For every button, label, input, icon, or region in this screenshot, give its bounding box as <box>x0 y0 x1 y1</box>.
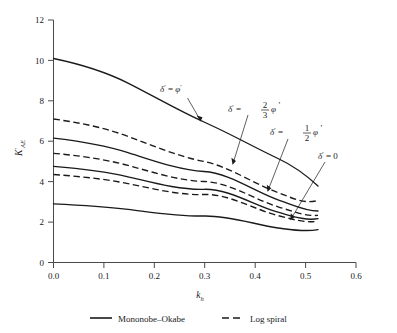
legend-label-mononobe-okabe: Mononobe–Okabe <box>118 314 185 324</box>
anno2-phi-prime: ′ <box>279 100 281 110</box>
y-tick-label-2: 2 <box>40 217 45 227</box>
figure-container: 0 2 4 6 8 10 12 0.0 0.1 0.2 0.3 0.4 0.5 … <box>0 0 397 333</box>
leader-line-delta-half <box>268 139 288 191</box>
anno4-zero: 0 <box>333 151 338 161</box>
x-axis-title-sub: h <box>200 295 203 302</box>
anno1-equals: = <box>166 84 176 94</box>
anno2-phi-symbol: φ <box>271 104 276 114</box>
y-tick-label-8: 8 <box>40 96 45 106</box>
curve-mo-delta-half-phi <box>54 166 319 219</box>
x-tick-label-5: 0.5 <box>300 271 312 281</box>
y-tick-label-4: 4 <box>40 177 45 187</box>
svg-text:δ′ =: δ′ = <box>270 126 283 137</box>
x-axis-title: kh <box>196 290 203 302</box>
svg-text:K′AE: K′AE <box>13 140 26 157</box>
anno4-equals: = <box>324 151 334 161</box>
svg-text:δ′ =: δ′ = <box>228 103 241 114</box>
x-tick-label-4: 0.4 <box>250 271 262 281</box>
y-axis-title: K′AE <box>13 140 26 157</box>
anno2-fraction-numerator: 2 <box>263 100 268 110</box>
svg-text:δ′ = φ′: δ′ = φ′ <box>160 83 182 94</box>
anno2-fraction-denominator: 3 <box>263 110 268 120</box>
leader-arrow-delta-half <box>267 185 272 192</box>
annotation-delta-two-thirds-phi: δ′ = 2 3 φ ′ <box>228 100 281 120</box>
anno2-equals: = <box>234 104 241 114</box>
curve-ls-delta-half-phi <box>54 175 319 222</box>
annotation-delta-zero: δ′ = 0 <box>318 150 338 161</box>
x-tick-label-3: 0.3 <box>199 271 211 281</box>
annotation-delta-eq-phi: δ′ = φ′ <box>160 83 182 94</box>
x-tick-label-2: 0.2 <box>149 271 160 281</box>
x-ticks-group: 0.0 0.1 0.2 0.3 0.4 0.5 0.6 <box>48 263 362 282</box>
x-tick-label-0: 0.0 <box>48 271 60 281</box>
anno3-fraction-denominator: 2 <box>305 133 310 143</box>
curve-mo-delta-two-thirds-phi <box>54 138 319 211</box>
anno3-phi-prime: ′ <box>321 123 323 133</box>
curve-mo-delta-eq-phi <box>54 59 319 187</box>
y-tick-label-12: 12 <box>35 15 44 25</box>
curves-group <box>54 59 319 231</box>
curve-mo-delta-zero <box>54 204 319 231</box>
anno1-phi-prime: ′ <box>180 83 182 91</box>
leader-arrow-delta-two-thirds <box>231 158 236 165</box>
chart-svg: 0 2 4 6 8 10 12 0.0 0.1 0.2 0.3 0.4 0.5 … <box>0 0 397 333</box>
svg-text:kh: kh <box>196 290 203 302</box>
annotation-delta-half-phi: δ′ = 1 2 φ ′ <box>270 123 323 143</box>
y-tick-label-10: 10 <box>35 56 45 66</box>
legend-group: Mononobe–Okabe Log spiral <box>90 314 287 324</box>
anno3-phi-symbol: φ <box>313 127 318 137</box>
y-axis-title-sub: AE <box>19 140 26 149</box>
axes-group <box>54 20 357 263</box>
y-tick-label-6: 6 <box>40 136 45 146</box>
anno3-fraction-numerator: 1 <box>305 123 310 133</box>
leader-line-delta-zero <box>291 162 325 219</box>
leader-line-delta-two-thirds <box>233 115 248 164</box>
anno3-equals: = <box>276 127 283 137</box>
y-tick-label-0: 0 <box>40 258 45 268</box>
x-tick-label-1: 0.1 <box>98 271 109 281</box>
svg-text:δ′ = 0: δ′ = 0 <box>318 150 338 161</box>
y-ticks-group: 0 2 4 6 8 10 12 <box>35 15 54 268</box>
x-tick-label-6: 0.6 <box>350 271 362 281</box>
legend-label-log-spiral: Log spiral <box>250 314 287 324</box>
